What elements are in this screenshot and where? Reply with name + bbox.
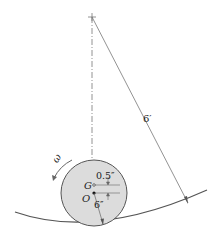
diagram-svg: ω 0.5″ G O 6″ 6′ (0, 0, 219, 238)
omega-label: ω (50, 152, 64, 165)
o-label: O (82, 193, 90, 204)
track-radius-label: 6′ (143, 113, 152, 124)
track-radius-arrowhead-icon (184, 196, 188, 204)
offset-label: 0.5″ (96, 170, 115, 181)
angular-velocity-arrowhead-icon (52, 175, 57, 181)
diagram-canvas: ω 0.5″ G O 6″ 6′ (0, 0, 219, 238)
g-label: G (84, 180, 92, 191)
center-of-mass-point (93, 184, 96, 187)
disk-radius-label: 6″ (94, 199, 104, 210)
